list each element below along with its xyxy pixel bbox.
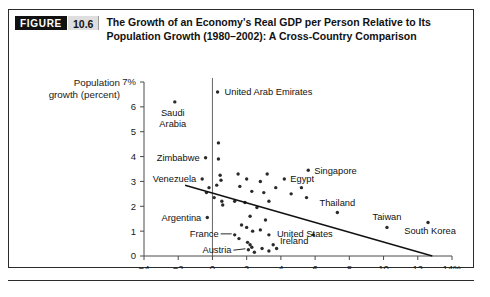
data-point [274, 186, 277, 189]
data-point [259, 180, 262, 183]
data-point [271, 243, 274, 246]
data-point [173, 100, 176, 103]
figure-bottom-rule [8, 280, 474, 281]
point-label: Zimbabwe [157, 153, 200, 163]
x-tick-label: 14% [442, 263, 462, 269]
x-tick-label: 0 [210, 263, 215, 269]
y-tick-label: 2 [131, 201, 136, 212]
data-point [266, 172, 269, 175]
data-point [385, 226, 388, 229]
point-label: Arabia [159, 119, 187, 129]
y-axis-title-line-1: Population [74, 77, 120, 88]
y-tick-labels: 01234567% [122, 76, 136, 261]
scatter-plot-svg: 01234567% −4−202468101214% United Arab E… [9, 54, 475, 269]
figure-title: The Growth of an Economy's Real GDP per … [106, 16, 430, 43]
data-point [218, 174, 221, 177]
y-tick-label: 6 [131, 101, 136, 112]
y-tick-label: 4 [131, 151, 136, 162]
point-label: France [190, 229, 219, 239]
scatter-plot: 01234567% −4−202468101214% United Arab E… [9, 54, 475, 269]
data-point [221, 203, 224, 206]
y-tick-label: 1 [131, 226, 136, 237]
data-point [336, 211, 339, 214]
data-point [307, 169, 310, 172]
figure-card: FIGURE 10.6 The Growth of an Economy's R… [8, 9, 474, 268]
data-point [246, 241, 249, 244]
y-axis [140, 82, 144, 256]
y-tick-label: 5 [131, 126, 136, 137]
data-point [236, 172, 239, 175]
axis-titles: Growth of real GDP per person (percent)P… [49, 77, 450, 269]
point-label: United Arab Emirates [225, 87, 313, 97]
data-point [259, 228, 262, 231]
x-tick-label: −2 [173, 263, 184, 269]
data-point [250, 246, 253, 249]
x-tick-label: 8 [347, 263, 352, 269]
data-point [220, 200, 223, 203]
data-point [240, 223, 243, 226]
x-tick-label: 12 [412, 263, 423, 269]
data-point [217, 141, 220, 144]
data-point [204, 156, 207, 159]
x-tick-label: 4 [278, 263, 283, 269]
x-axis [144, 256, 452, 260]
point-label: Thailand [320, 198, 356, 208]
data-point [216, 90, 219, 93]
point-label: Taiwan [373, 212, 402, 222]
x-tick-label: 10 [378, 263, 389, 269]
data-point [264, 218, 267, 221]
data-point [253, 251, 256, 254]
data-point [237, 237, 240, 240]
data-point [212, 196, 215, 199]
data-point [267, 233, 270, 236]
point-label: Argentina [161, 213, 202, 223]
data-point [283, 177, 286, 180]
data-point [238, 185, 241, 188]
data-point [262, 191, 265, 194]
x-tick-label: 2 [244, 263, 249, 269]
point-label: Saudi [161, 108, 185, 118]
data-point [248, 215, 251, 218]
data-point [305, 196, 308, 199]
y-axis-title-line-2: growth (percent) [49, 89, 120, 100]
data-point [245, 177, 248, 180]
point-label: Singapore [314, 166, 356, 176]
figure-title-line-2: Population Growth (1980–2002): A Cross-C… [106, 30, 430, 44]
point-label: Austria [202, 245, 232, 255]
data-point [275, 247, 278, 250]
figure-badge-label: FIGURE [15, 16, 67, 30]
y-tick-label: 7% [122, 76, 136, 87]
data-point [260, 247, 263, 250]
x-tick-label: −4 [139, 263, 150, 269]
point-annotations: United Arab EmiratesSaudiArabiaZimbabweV… [153, 87, 457, 255]
figure-header: FIGURE 10.6 The Growth of an Economy's R… [9, 10, 473, 54]
point-label: Venezuela [153, 174, 197, 184]
point-label: Egypt [290, 174, 314, 184]
data-point [245, 226, 248, 229]
data-point [233, 233, 236, 236]
data-point [300, 186, 303, 189]
data-point [267, 200, 270, 203]
data-point [251, 229, 254, 232]
data-point [215, 183, 218, 186]
data-point [267, 249, 270, 252]
figure-number-label: 10.6 [68, 16, 99, 30]
x-tick-labels: −4−202468101214% [139, 263, 462, 269]
data-point [219, 178, 222, 181]
point-label: Ireland [280, 236, 308, 246]
data-point [247, 248, 250, 251]
data-point [426, 221, 429, 224]
data-point [289, 192, 292, 195]
point-label: South Korea [404, 226, 457, 236]
y-tick-label: 3 [131, 176, 136, 187]
x-tick-label: 6 [312, 263, 317, 269]
data-point [250, 190, 253, 193]
data-point [206, 216, 209, 219]
data-point [217, 157, 220, 160]
figure-title-line-1: The Growth of an Economy's Real GDP per … [106, 16, 430, 30]
data-point [207, 186, 210, 189]
data-point [200, 177, 203, 180]
y-tick-label: 0 [131, 250, 136, 261]
